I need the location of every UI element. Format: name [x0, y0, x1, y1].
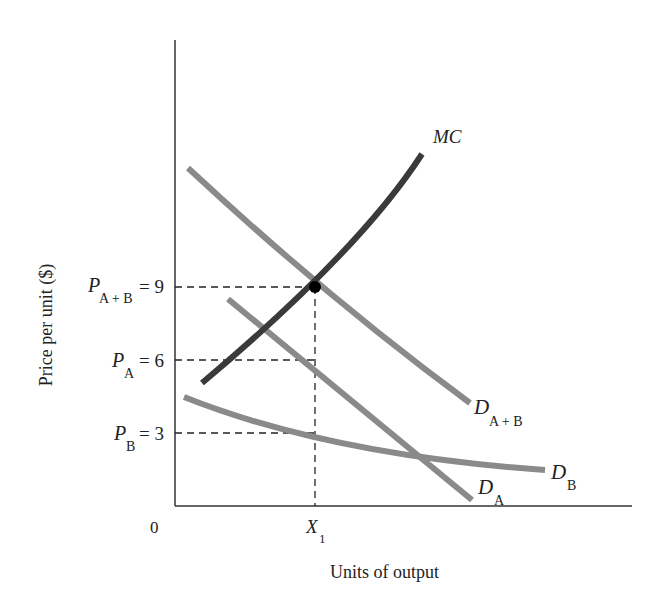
marginal-cost-curve	[202, 154, 422, 383]
reference-lines	[175, 287, 315, 506]
y-tick-pa: P A = 6	[111, 349, 164, 381]
svg-text:D: D	[550, 460, 566, 484]
demand-ab-label: D A + B	[473, 395, 523, 429]
equilibrium-point	[309, 281, 321, 293]
svg-text:X: X	[305, 516, 319, 537]
y-tick-pb: P B = 3	[113, 422, 164, 454]
svg-text:= 6: = 6	[139, 350, 164, 371]
marginal-cost-demand-chart: MC D A + B D B D A P A + B = 9 P A = 6 P…	[0, 0, 668, 603]
svg-text:1: 1	[319, 531, 326, 546]
demand-ab-curve	[188, 168, 470, 403]
svg-text:D: D	[473, 395, 489, 419]
origin-label: 0	[150, 518, 159, 537]
svg-text:= 3: = 3	[139, 423, 164, 444]
svg-text:A + B: A + B	[489, 414, 523, 429]
svg-text:A: A	[494, 493, 505, 508]
svg-text:B: B	[567, 478, 576, 493]
svg-text:= 9: = 9	[139, 276, 164, 297]
svg-text:P: P	[113, 422, 126, 444]
mc-label: MC	[432, 126, 462, 147]
svg-text:D: D	[477, 475, 493, 499]
x-axis-title: Units of output	[330, 562, 439, 582]
svg-text:A: A	[124, 366, 135, 381]
y-tick-pab: P A + B = 9	[87, 274, 164, 306]
demand-b-label: D B	[550, 460, 576, 493]
svg-text:B: B	[126, 439, 135, 454]
svg-text:A + B: A + B	[99, 291, 133, 306]
x-tick-x1: X 1	[305, 516, 326, 546]
svg-text:P: P	[111, 349, 124, 371]
demand-a-label: D A	[477, 475, 505, 508]
y-axis-title: Price per unit ($)	[36, 264, 57, 386]
